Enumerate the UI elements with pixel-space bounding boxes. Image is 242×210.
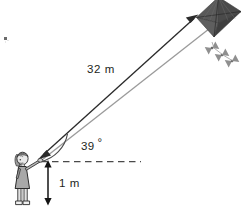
- height-measure-arrow: [44, 160, 51, 206]
- height-label-group: 1 m: [59, 177, 80, 189]
- length-measure-arrow: [38, 15, 198, 160]
- angle-label: 39: [81, 140, 94, 152]
- stray-dot-artifact: [4, 37, 9, 43]
- diagram-canvas: 39 ° 32 m 1 m: [0, 0, 242, 210]
- kite-trigonometry-diagram: 39 ° 32 m 1 m: [0, 0, 242, 210]
- kite-icon: [197, 0, 242, 37]
- degree-symbol: °: [98, 136, 103, 148]
- kite-tail: [205, 41, 240, 67]
- kite-string: [40, 25, 214, 162]
- height-label: 1 m: [59, 177, 80, 189]
- string-length-label: 32 m: [87, 63, 115, 75]
- girl-flying-kite: [15, 152, 43, 204]
- angle-label-group: 39 °: [81, 136, 102, 153]
- string-length-label-group: 32 m: [87, 63, 115, 75]
